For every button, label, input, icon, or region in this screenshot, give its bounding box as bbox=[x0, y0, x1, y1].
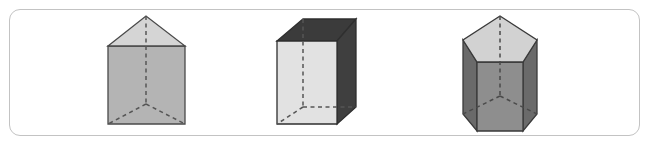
figure-container bbox=[0, 0, 651, 146]
triangular-prism bbox=[108, 16, 185, 124]
rectangular-prism-front-face bbox=[277, 41, 337, 124]
pentagonal-prism bbox=[463, 16, 537, 131]
rectangular-prism bbox=[277, 19, 356, 124]
geometric-solids-illustration bbox=[0, 0, 651, 146]
